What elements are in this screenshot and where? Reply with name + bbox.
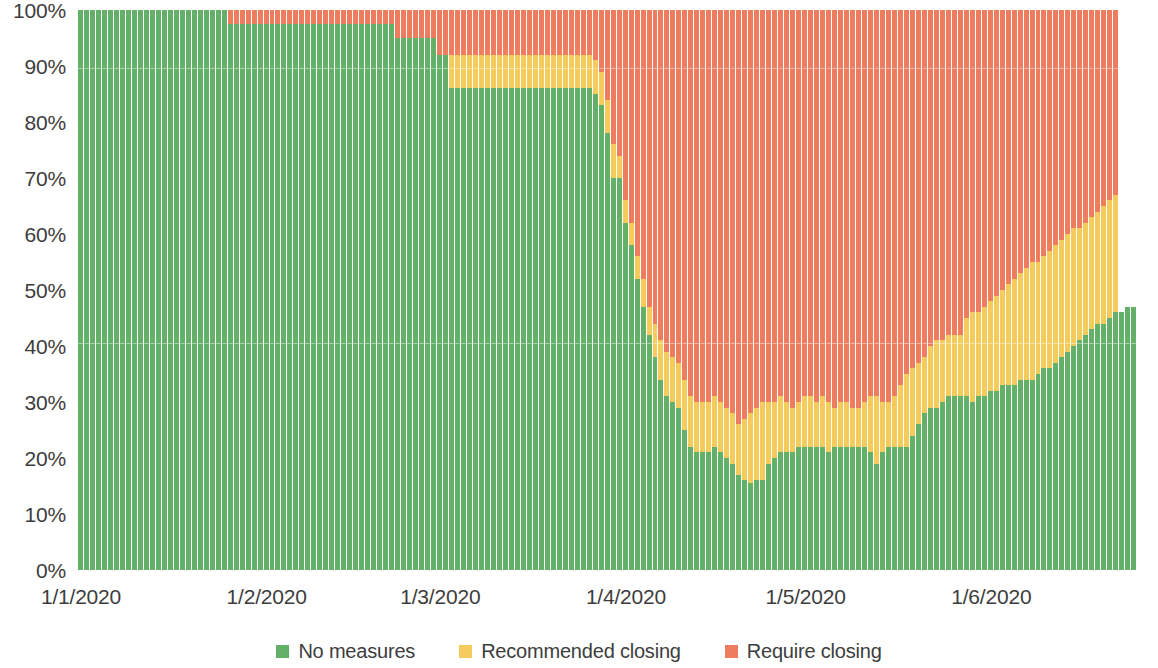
bar-segment-recommended-closing <box>754 408 759 481</box>
bar-segment-require-closing <box>287 10 292 24</box>
bar-segment-require-closing <box>928 10 933 346</box>
bar-segment-recommended-closing <box>1030 262 1035 380</box>
bar-segment-recommended-closing <box>641 279 646 307</box>
bar-segment-require-closing <box>742 10 747 419</box>
legend-label: No measures <box>298 641 415 661</box>
bar-segment-recommended-closing <box>838 402 843 447</box>
legend-label: Recommended closing <box>481 641 681 661</box>
bar-segment-require-closing <box>635 10 640 256</box>
bar-segment-require-closing <box>670 10 675 357</box>
bar-segment-require-closing <box>587 10 592 55</box>
bar-segment-no-measures <box>910 436 915 570</box>
bar-segment-no-measures <box>299 24 304 570</box>
bar-segment-recommended-closing <box>820 396 825 446</box>
bar-segment-recommended-closing <box>1018 273 1023 379</box>
bar-segment-no-measures <box>952 396 957 570</box>
bar-segment-recommended-closing <box>1000 290 1005 385</box>
bar-segment-require-closing <box>988 10 993 301</box>
bar-segment-require-closing <box>688 10 693 396</box>
bar-segment-no-measures <box>694 452 699 570</box>
bar-segment-require-closing <box>844 10 849 402</box>
bar-segment-no-measures <box>970 402 975 570</box>
bar-segment-require-closing <box>455 10 460 55</box>
bar-segment-recommended-closing <box>784 402 789 452</box>
bar-segment-no-measures <box>258 24 263 570</box>
bar-segment-require-closing <box>940 10 945 340</box>
bar-segment-require-closing <box>664 10 669 352</box>
bar-segment-no-measures <box>1024 380 1029 570</box>
bar-segment-recommended-closing <box>1047 251 1052 369</box>
bar-segment-require-closing <box>611 10 616 144</box>
bar-segment-require-closing <box>1047 10 1052 251</box>
bar-segment-require-closing <box>228 10 233 24</box>
bar-segment-recommended-closing <box>485 55 490 89</box>
bar-segment-require-closing <box>311 10 316 24</box>
bar-segment-require-closing <box>425 10 430 38</box>
bar-segment-require-closing <box>700 10 705 402</box>
bar-segment-no-measures <box>168 10 173 570</box>
bar-segment-no-measures <box>126 10 131 570</box>
legend-swatch-yellow-icon <box>459 645 472 658</box>
bar-segment-recommended-closing <box>670 357 675 402</box>
bar-segment-no-measures <box>838 447 843 570</box>
bar-segment-recommended-closing <box>1113 195 1118 313</box>
bar-segment-require-closing <box>814 10 819 402</box>
bar-segment-recommended-closing <box>676 363 681 408</box>
bar-segment-recommended-closing <box>958 335 963 397</box>
bar-segment-no-measures <box>736 475 741 570</box>
table-row <box>1149 10 1155 570</box>
bar-segment-recommended-closing <box>760 402 765 480</box>
y-axis-tick-50: 50% <box>25 280 66 301</box>
bar-segment-no-measures <box>1101 324 1106 570</box>
bar-segment-require-closing <box>623 10 628 200</box>
bar-segment-no-measures <box>270 24 275 570</box>
legend-item-1[interactable]: Recommended closing <box>459 641 681 661</box>
bar-segment-no-measures <box>796 447 801 570</box>
bar-segment-no-measures <box>587 88 592 570</box>
bar-segment-recommended-closing <box>1036 262 1041 374</box>
bar-segment-no-measures <box>563 88 568 570</box>
bar-segment-no-measures <box>389 24 394 570</box>
bar-segment-require-closing <box>682 10 687 380</box>
bar-segment-no-measures <box>784 452 789 570</box>
bar-segment-require-closing <box>581 10 586 55</box>
legend-item-0[interactable]: No measures <box>276 641 415 661</box>
bar-segment-no-measures <box>311 24 316 570</box>
bar-segment-no-measures <box>347 24 352 570</box>
x-axis: 1/1/20201/2/20201/3/20201/4/20201/5/2020… <box>0 572 1158 620</box>
bar-segment-require-closing <box>754 10 759 408</box>
bar-segment-require-closing <box>886 10 891 402</box>
bar-segment-no-measures <box>772 458 777 570</box>
bar-segment-no-measures <box>431 38 436 570</box>
bar-segment-require-closing <box>952 10 957 335</box>
bar-segment-recommended-closing <box>1095 212 1100 324</box>
bar-segment-require-closing <box>1012 10 1017 279</box>
bar-segment-require-closing <box>874 10 879 396</box>
bar-segment-no-measures <box>748 483 753 570</box>
bar-segment-recommended-closing <box>904 374 909 447</box>
bar-segment-no-measures <box>162 10 167 570</box>
bar-segment-no-measures <box>874 464 879 570</box>
bar-segment-recommended-closing <box>946 335 951 397</box>
x-axis-tick-5: 1/6/2020 <box>951 586 1031 607</box>
bar-segment-no-measures <box>994 391 999 570</box>
bar-segment-recommended-closing <box>527 55 532 89</box>
bar-segment-require-closing <box>419 10 424 38</box>
bar-segment-no-measures <box>521 88 526 570</box>
bar-segment-no-measures <box>862 447 867 570</box>
bar-segment-recommended-closing <box>892 396 897 446</box>
bar-segment-recommended-closing <box>455 55 460 89</box>
bar-segment-no-measures <box>425 38 430 570</box>
bar-segment-recommended-closing <box>629 223 634 245</box>
bar-segment-no-measures <box>485 88 490 570</box>
bar-segment-recommended-closing <box>539 55 544 89</box>
x-axis-tick-1: 1/2/2020 <box>227 586 307 607</box>
bar-segment-recommended-closing <box>545 55 550 89</box>
bar-segment-require-closing <box>270 10 275 24</box>
bar-segment-no-measures <box>742 480 747 570</box>
bar-segment-require-closing <box>1077 10 1082 228</box>
bar-segment-no-measures <box>252 24 257 570</box>
bar-segment-recommended-closing <box>569 55 574 89</box>
legend-item-2[interactable]: Require closing <box>725 641 882 661</box>
bar-segment-no-measures <box>778 452 783 570</box>
